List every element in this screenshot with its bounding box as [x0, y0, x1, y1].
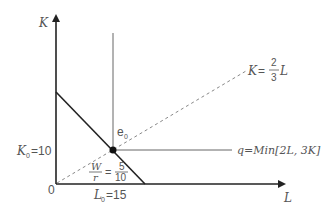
svg-text:=10: =10 — [31, 144, 52, 158]
equilibrium-label: e 0 — [117, 125, 128, 140]
equilibrium-point — [110, 147, 117, 154]
l0-label: L 0 =15 — [93, 188, 127, 203]
diagram-canvas: K L 0 K 0 =10 L 0 =15 e 0 W r = 5 10 K =… — [0, 0, 330, 217]
svg-text:L: L — [279, 64, 288, 78]
svg-text:2: 2 — [271, 57, 277, 68]
svg-text:W: W — [91, 161, 102, 172]
price-ratio-label: W r = 5 10 — [89, 161, 128, 183]
svg-text:=15: =15 — [106, 188, 127, 202]
y-axis-label: K — [38, 16, 49, 30]
k0-label: K 0 =10 — [16, 144, 52, 159]
svg-text:3: 3 — [271, 72, 277, 83]
svg-text:e: e — [117, 125, 124, 139]
svg-text:10: 10 — [115, 172, 127, 183]
svg-text:5: 5 — [119, 161, 125, 172]
ray-equation-label: K = 2 3 L — [247, 57, 288, 83]
origin-label: 0 — [48, 183, 55, 197]
svg-text:=: = — [105, 166, 111, 178]
svg-text:0: 0 — [26, 152, 30, 159]
svg-text:0: 0 — [101, 196, 105, 203]
svg-text:0: 0 — [124, 133, 128, 140]
isoquant-label: q=Min[2L, 3K] — [237, 144, 321, 157]
svg-text:=: = — [258, 64, 265, 78]
expansion-ray — [57, 71, 246, 183]
svg-text:r: r — [93, 172, 99, 183]
x-axis-label: L — [283, 191, 292, 205]
svg-text:K: K — [247, 64, 258, 78]
